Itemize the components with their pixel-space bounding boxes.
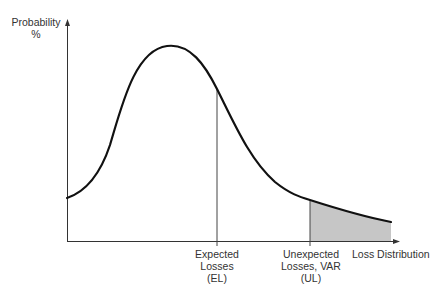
- unexpected-loss-label-line2: Losses, VAR: [275, 260, 347, 272]
- expected-loss-label: Expected Losses (EL): [187, 248, 247, 284]
- unexpected-loss-label: Unexpected Losses, VAR (UL): [275, 248, 347, 284]
- unexpected-loss-label-line3: (UL): [275, 272, 347, 284]
- x-axis-arrow-icon: [393, 239, 400, 244]
- y-axis-label-line2: %: [8, 28, 64, 40]
- distribution-curve: [67, 46, 391, 222]
- expected-loss-label-line3: (EL): [187, 272, 247, 284]
- x-axis-label: Loss Distribution: [352, 248, 441, 260]
- y-axis-label: Probability %: [8, 16, 64, 40]
- y-axis-arrow-icon: [65, 19, 70, 26]
- expected-loss-label-line1: Expected: [187, 248, 247, 260]
- y-axis-label-line1: Probability: [8, 16, 64, 28]
- expected-loss-label-line2: Losses: [187, 260, 247, 272]
- unexpected-loss-label-line1: Unexpected: [275, 248, 347, 260]
